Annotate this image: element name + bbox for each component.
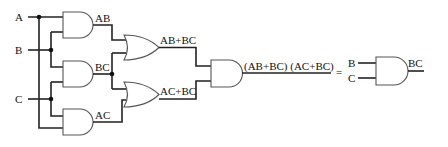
label-final-output: (AB+BC) (AC+BC)	[244, 60, 334, 73]
simplified-input-c: C	[348, 72, 355, 84]
simplified-output-label: BC	[408, 57, 423, 69]
simplified-and-gate: B C BC	[348, 57, 424, 85]
label-ab-plus-bc: AB+BC	[160, 34, 196, 46]
or-gate-ab-bc: AB+BC	[124, 34, 211, 66]
label-ac: AC	[95, 109, 110, 121]
and-gate-bc: BC	[63, 53, 126, 89]
simplified-input-b: B	[348, 57, 355, 69]
label-bc: BC	[95, 61, 110, 73]
and-gate-final: (AB+BC) (AC+BC)	[211, 60, 334, 87]
and-gate-ab: AB	[63, 12, 126, 40]
wire-b	[28, 32, 63, 67]
label-ac-plus-bc: AC+BC	[160, 85, 196, 97]
or-gate-ac-bc: AC+BC	[124, 81, 211, 107]
wire-c	[28, 82, 63, 116]
input-c-label: C	[15, 93, 22, 105]
input-a-label: A	[15, 11, 23, 23]
logic-circuit-diagram: A B C AB BC AC	[0, 0, 448, 147]
label-ab: AB	[95, 12, 110, 24]
input-b-label: B	[15, 44, 22, 56]
and-gate-ac: AC	[63, 100, 126, 135]
equals-sign: =	[336, 66, 342, 78]
